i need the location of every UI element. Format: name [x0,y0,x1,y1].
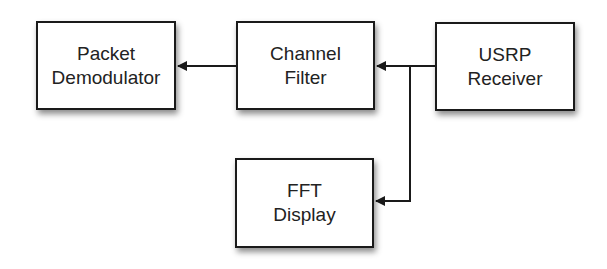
node-channel-filter: Channel Filter [236,21,375,110]
node-fft-display: FFT Display [235,158,374,248]
node-label-line1: USRP [479,43,532,67]
node-usrp-receiver: USRP Receiver [435,22,575,111]
edge-usrp-to-fft [376,66,410,201]
node-label-line1: Channel [270,42,341,66]
node-label-line2: Demodulator [52,66,161,90]
node-label-line2: Display [273,203,335,227]
node-label-line1: FFT [287,179,322,203]
node-label-line2: Receiver [468,67,543,91]
node-packet-demodulator: Packet Demodulator [36,21,176,110]
node-label-line2: Filter [284,66,326,90]
node-label-line1: Packet [77,42,135,66]
